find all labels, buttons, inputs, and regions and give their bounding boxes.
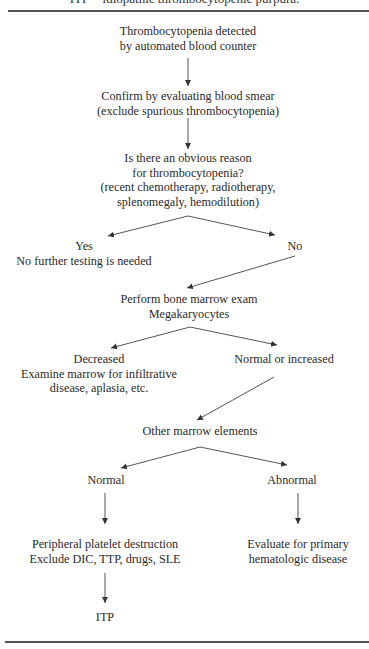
arrow-marrow-normal-increased	[190, 327, 277, 345]
node-yes: Yes No further testing is needed	[16, 239, 151, 268]
node-decreased: Decreased Examine marrow for infiltrativ…	[21, 352, 177, 396]
arrow-increased-other	[197, 377, 274, 420]
arrow-no-marrow	[187, 256, 295, 288]
arrow-reason-yes	[108, 216, 188, 236]
node-peripheral-destruction: Peripheral platelet destruction Exclude …	[29, 537, 180, 566]
arrow-other-normal	[121, 447, 200, 468]
node-normal: Normal	[87, 473, 124, 488]
node-confirm-smear: Confirm by evaluating blood smear (exclu…	[97, 89, 279, 118]
node-no: No	[288, 239, 303, 254]
node-normal-or-increased: Normal or increased	[234, 352, 334, 367]
node-evaluate-primary: Evaluate for primary hematologic disease	[247, 537, 349, 566]
node-bone-marrow-exam: Perform bone marrow exam Megakaryocytes	[120, 292, 257, 321]
node-itp: ITP	[96, 610, 114, 625]
node-abnormal: Abnormal	[267, 473, 316, 488]
arrow-reason-no	[188, 216, 275, 235]
arrow-other-abnormal	[200, 447, 287, 465]
node-other-marrow-elements: Other marrow elements	[142, 424, 257, 439]
node-obvious-reason: Is there an obvious reason for thrombocy…	[100, 151, 275, 209]
arrow-marrow-decreased	[111, 327, 190, 348]
node-thrombocytopenia-detected: Thrombocytopenia detected by automated b…	[120, 24, 256, 53]
